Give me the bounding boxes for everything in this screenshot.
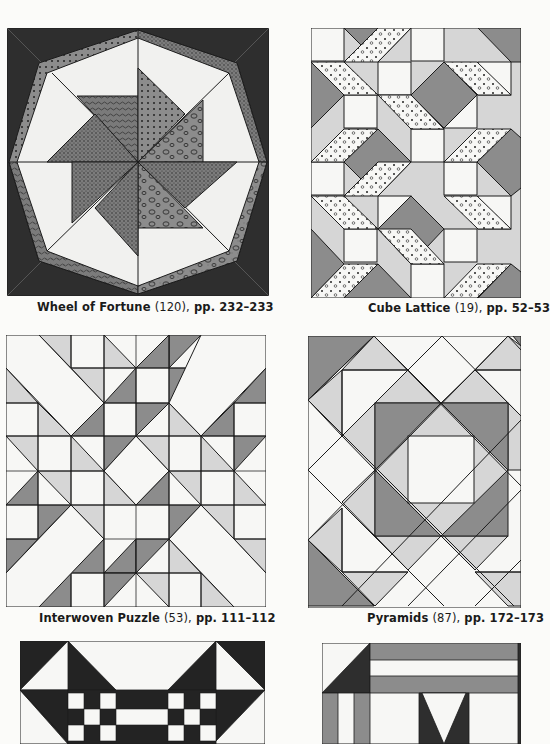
striped-corner-pattern	[322, 643, 521, 744]
checker-bridge-pattern	[20, 641, 265, 744]
quilt-block-wheel-of-fortune	[7, 28, 269, 296]
interwoven-puzzle-pattern	[6, 335, 266, 607]
quilt-block-cube-lattice	[311, 28, 521, 298]
quilt-number: (120),	[155, 300, 190, 314]
caption-pyramids: Pyramids (87), pp. 172–173	[367, 611, 544, 625]
quilt-name: Interwoven Puzzle	[39, 611, 160, 625]
quilt-name: Cube Lattice	[368, 301, 451, 315]
quilt-number: (87),	[432, 611, 460, 625]
quilt-pages: pp. 111–112	[196, 611, 276, 625]
wheel-of-fortune-pattern	[7, 28, 269, 296]
quilt-pages: pp. 172–173	[464, 611, 544, 625]
quilt-pages: pp. 52–53	[487, 301, 550, 315]
quilt-block-pyramids	[308, 336, 521, 608]
caption-cube-lattice: Cube Lattice (19), pp. 52–53	[368, 301, 550, 315]
cube-lattice-pattern	[311, 28, 521, 298]
quilt-name: Pyramids	[367, 611, 428, 625]
quilt-block-striped-corner	[322, 643, 521, 744]
quilt-number: (19),	[455, 301, 483, 315]
quilt-name: Wheel of Fortune	[37, 300, 151, 314]
pyramids-pattern	[308, 336, 521, 608]
quilt-number: (53),	[164, 611, 192, 625]
quilt-pages: pp. 232–233	[194, 300, 274, 314]
caption-interwoven-puzzle: Interwoven Puzzle (53), pp. 111–112	[39, 611, 276, 625]
caption-wheel-of-fortune: Wheel of Fortune (120), pp. 232–233	[37, 300, 274, 314]
quilt-block-interwoven-puzzle	[6, 335, 266, 607]
quilt-block-checker-bridge	[20, 641, 265, 744]
